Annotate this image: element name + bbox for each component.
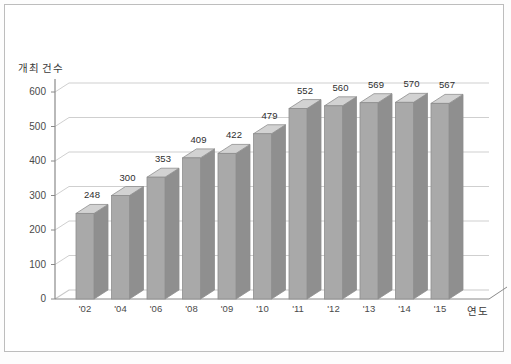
y-axis-title: 개최 건수 — [18, 60, 63, 75]
bar-value-label: 353 — [143, 153, 183, 164]
y-tick-label: 400 — [16, 155, 46, 166]
bar-value-label: 248 — [72, 189, 112, 200]
bar-value-label: 570 — [392, 78, 432, 89]
y-tick-label: 0 — [16, 293, 46, 304]
bar-column — [112, 187, 144, 300]
floor-depth-edge — [489, 287, 507, 299]
bar-front-face — [289, 109, 307, 299]
bar-column — [431, 94, 463, 299]
x-tick-label: '15 — [420, 303, 460, 314]
bar-value-label: 569 — [356, 79, 396, 90]
y-tick-label: 300 — [16, 190, 46, 201]
x-tick-label: '04 — [101, 303, 141, 314]
bar-column — [218, 144, 250, 299]
bar-value-label: 422 — [214, 129, 254, 140]
x-tick-label: '09 — [207, 303, 247, 314]
x-tick-label: '08 — [172, 303, 212, 314]
bar-value-label: 552 — [285, 85, 325, 96]
bar-column — [183, 149, 215, 299]
bar-value-label: 409 — [179, 134, 219, 145]
x-tick-label: '06 — [136, 303, 176, 314]
bar-column — [325, 97, 357, 299]
bar-front-face — [431, 103, 449, 299]
y-tick-label: 600 — [16, 86, 46, 97]
bar-front-face — [183, 158, 201, 299]
bar-value-label: 300 — [108, 172, 148, 183]
bar-column — [396, 93, 428, 299]
bar-value-label: 479 — [250, 110, 290, 121]
x-tick-label: '13 — [349, 303, 389, 314]
bars-group — [76, 93, 463, 299]
bar-column — [360, 94, 392, 299]
bar-column — [147, 168, 179, 299]
x-axis-title: 연도 — [467, 303, 488, 318]
x-tick-label: '02 — [65, 303, 105, 314]
bar-value-label: 560 — [321, 82, 361, 93]
bar-front-face — [360, 103, 378, 299]
bar-front-face — [147, 177, 165, 299]
chart-page: 개최 건수 연도 0100200300400500600 '02'04'06'0… — [0, 0, 511, 364]
bar-front-face — [396, 102, 414, 299]
x-tick-label: '14 — [385, 303, 425, 314]
bar-front-face — [254, 134, 272, 299]
x-tick-label: '12 — [314, 303, 354, 314]
y-tick-label: 200 — [16, 224, 46, 235]
bar-column — [254, 125, 286, 299]
bar-front-face — [218, 153, 236, 299]
bar-column — [289, 100, 321, 299]
y-tick-label: 500 — [16, 121, 46, 132]
bar-column — [76, 204, 108, 299]
bar-value-label: 567 — [427, 79, 467, 90]
y-tick-label: 100 — [16, 259, 46, 270]
x-tick-label: '10 — [243, 303, 283, 314]
bar-front-face — [112, 196, 130, 300]
bar-front-face — [325, 106, 343, 299]
bar-front-face — [76, 213, 94, 299]
x-tick-label: '11 — [278, 303, 318, 314]
